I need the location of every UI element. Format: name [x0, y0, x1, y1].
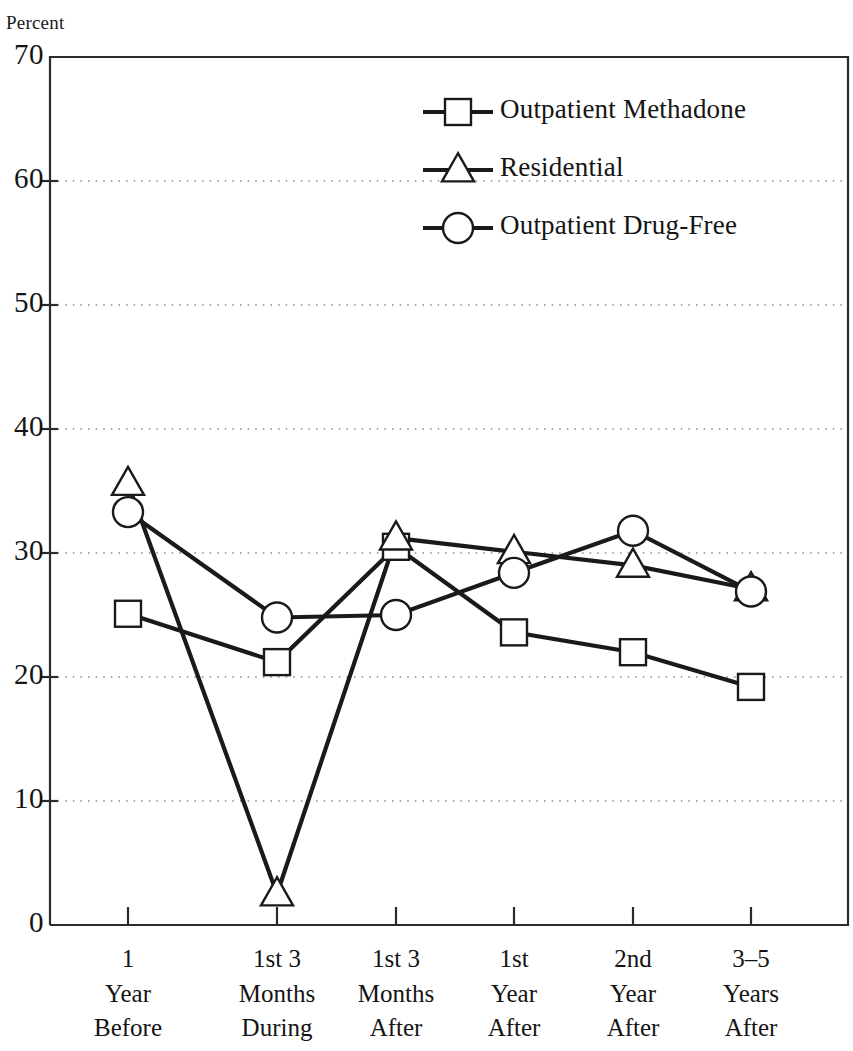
- y-tick-label: 50: [0, 286, 44, 319]
- data-point-marker: [381, 600, 411, 630]
- data-point-marker: [499, 558, 529, 588]
- frame-rect: [50, 57, 848, 925]
- x-tick-label: 1stYearAfter: [449, 942, 579, 1046]
- x-tick-label-line: Year: [63, 977, 193, 1012]
- legend-marker-circle: [443, 213, 473, 243]
- x-tick-label-line: 1st: [449, 942, 579, 977]
- data-point-marker: [618, 516, 648, 546]
- x-tick-label: 3–5YearsAfter: [686, 942, 816, 1046]
- x-tick-label-line: Before: [63, 1011, 193, 1046]
- data-point-marker: [501, 619, 527, 645]
- data-point-marker: [262, 602, 292, 632]
- x-tick-label-line: Months: [331, 977, 461, 1012]
- x-tick-label: 2ndYearAfter: [568, 942, 698, 1046]
- y-tick-label: 10: [0, 782, 44, 815]
- x-tick-label-line: 1: [63, 942, 193, 977]
- data-series-layer: [112, 467, 767, 906]
- x-tick-label: 1st 3MonthsDuring: [212, 942, 342, 1046]
- x-tick-label: 1YearBefore: [63, 942, 193, 1046]
- x-tick-label-line: Years: [686, 977, 816, 1012]
- series-lines: [128, 484, 751, 894]
- legend-marker-square: [445, 99, 471, 125]
- series-line-0: [128, 547, 751, 687]
- data-point-marker: [115, 601, 141, 627]
- x-tick-label-line: After: [686, 1011, 816, 1046]
- x-tick-label-line: After: [568, 1011, 698, 1046]
- plot-frame: [50, 57, 848, 925]
- y-tick-label: 20: [0, 658, 44, 691]
- x-tick-label: 1st 3MonthsAfter: [331, 942, 461, 1046]
- y-tick-label: 40: [0, 410, 44, 443]
- x-tick-label-line: Year: [568, 977, 698, 1012]
- data-point-marker: [113, 497, 143, 527]
- grid-lines: [50, 181, 848, 801]
- plot-area: [0, 0, 853, 1051]
- data-point-marker: [620, 639, 646, 665]
- chart-figure: Percent 010203040506070 1YearBefore1st 3…: [0, 0, 853, 1051]
- x-tick-label-line: 2nd: [568, 942, 698, 977]
- legend-markers: [423, 99, 493, 243]
- legend-label: Outpatient Methadone: [500, 94, 746, 125]
- x-tick-label-line: After: [449, 1011, 579, 1046]
- data-point-marker: [738, 674, 764, 700]
- x-tick-label-line: Months: [212, 977, 342, 1012]
- legend-label: Residential: [500, 152, 624, 183]
- y-tick-label: 60: [0, 162, 44, 195]
- x-axis-ticks: [128, 907, 751, 925]
- y-tick-label: 30: [0, 534, 44, 567]
- x-tick-label-line: Year: [449, 977, 579, 1012]
- data-point-marker: [736, 576, 766, 606]
- y-tick-label: 0: [0, 906, 44, 939]
- series-markers: [112, 467, 767, 906]
- data-point-marker: [112, 467, 144, 495]
- x-tick-label-line: 3–5: [686, 942, 816, 977]
- data-point-marker: [264, 649, 290, 675]
- x-tick-label-line: After: [331, 1011, 461, 1046]
- x-tick-label-line: 1st 3: [331, 942, 461, 977]
- series-line-2: [128, 512, 751, 617]
- x-tick-label-line: 1st 3: [212, 942, 342, 977]
- y-tick-label: 70: [0, 38, 44, 71]
- x-tick-label-line: During: [212, 1011, 342, 1046]
- legend-marker-triangle: [442, 153, 474, 181]
- legend-label: Outpatient Drug-Free: [500, 210, 737, 241]
- data-point-marker: [261, 877, 293, 905]
